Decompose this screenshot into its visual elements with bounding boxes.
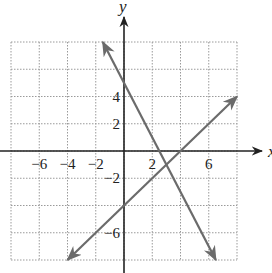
- y-axis-label: y: [117, 0, 127, 16]
- x-tick-label: 6: [205, 156, 213, 172]
- x-tick-label: −4: [60, 156, 76, 172]
- x-axis-label: x: [267, 142, 272, 161]
- plot-area: xy−6−4−22642−2−6: [0, 0, 272, 273]
- x-tick-label: 2: [149, 156, 157, 172]
- x-tick-label: −2: [88, 156, 104, 172]
- x-tick-label: −6: [31, 156, 47, 172]
- coordinate-graph: xy−6−4−22642−2−6: [0, 0, 272, 273]
- y-tick-label: −2: [104, 170, 120, 186]
- y-tick-label: 4: [113, 89, 121, 105]
- y-tick-label: −6: [104, 225, 120, 241]
- y-tick-label: 2: [113, 116, 121, 132]
